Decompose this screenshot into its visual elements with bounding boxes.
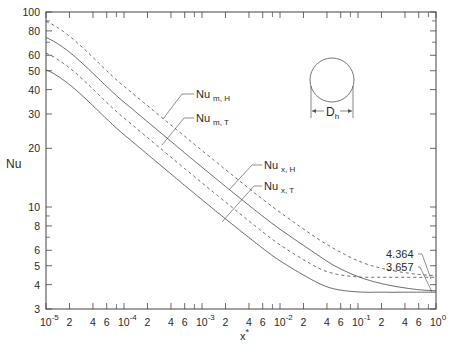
curves [46, 21, 436, 292]
svg-text:100: 100 [22, 6, 40, 18]
svg-text:10-2: 10-2 [274, 313, 293, 328]
svg-text:2: 2 [379, 316, 385, 328]
label-nu-x-h: Num, T [196, 112, 229, 127]
curve-nu-m-h [46, 21, 436, 275]
svg-text:100: 100 [430, 313, 447, 328]
svg-text:60: 60 [28, 49, 40, 61]
x-axis-ticks: 10-524610-424610-324610-224610-1246100 [40, 12, 447, 328]
svg-text:6: 6 [182, 316, 188, 328]
y-axis-ticks: 3456810203040506080100 [22, 6, 436, 315]
y-axis-label: Nu [6, 157, 21, 171]
svg-text:2: 2 [67, 316, 73, 328]
arrow-left-icon [312, 109, 316, 113]
nusselt-chart: 3456810203040506080100 10-524610-424610-… [0, 0, 451, 346]
svg-text:3: 3 [34, 303, 40, 315]
curve-nu-x-h [46, 53, 436, 277]
svg-text:6: 6 [338, 316, 344, 328]
hydraulic-diameter-label: Dh [326, 105, 339, 121]
svg-text:80: 80 [28, 25, 40, 37]
annotation-4364: 4.364 [386, 248, 414, 260]
label-nu-m-t: Nux, H [264, 159, 296, 174]
svg-text:8: 8 [34, 220, 40, 232]
svg-text:10-1: 10-1 [352, 313, 371, 328]
svg-text:20: 20 [28, 142, 40, 154]
curve-nu-x-t [46, 70, 436, 292]
svg-text:4: 4 [402, 316, 408, 328]
svg-text:10-4: 10-4 [118, 313, 137, 328]
asymptote-annotations: 4.364 3.657 [386, 248, 432, 292]
svg-text:4: 4 [168, 316, 174, 328]
svg-text:10-5: 10-5 [40, 313, 59, 328]
svg-text:2: 2 [301, 316, 307, 328]
circular-duct-diagram: Dh [310, 58, 354, 121]
label-nu-m-h: Num, H [196, 88, 230, 103]
svg-text:6: 6 [34, 244, 40, 256]
svg-text:4: 4 [324, 316, 330, 328]
svg-text:6: 6 [260, 316, 266, 328]
svg-text:10-3: 10-3 [196, 313, 215, 328]
svg-text:4: 4 [90, 316, 96, 328]
duct-cross-section [310, 58, 354, 102]
svg-text:5: 5 [34, 260, 40, 272]
svg-text:30: 30 [28, 108, 40, 120]
svg-text:10: 10 [28, 201, 40, 213]
x-axis-label: x* [240, 327, 250, 342]
svg-text:50: 50 [28, 65, 40, 77]
arrow-right-icon [348, 109, 352, 113]
curve-nu-m-t [46, 38, 436, 291]
svg-text:6: 6 [416, 316, 422, 328]
curve-labels: Num, HNum, TNux, HNux, T [162, 88, 296, 222]
svg-text:2: 2 [223, 316, 229, 328]
svg-text:40: 40 [28, 84, 40, 96]
label-nu-x-t: Nux, T [264, 180, 294, 195]
plot-frame [46, 12, 436, 309]
svg-text:4: 4 [34, 279, 40, 291]
svg-text:6: 6 [104, 316, 110, 328]
annotation-3657: 3.657 [386, 261, 414, 273]
svg-text:2: 2 [145, 316, 151, 328]
